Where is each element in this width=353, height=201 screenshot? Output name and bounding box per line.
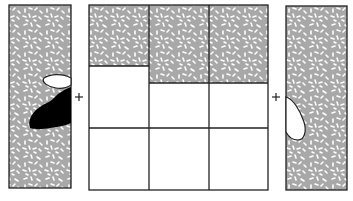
composition-diagram xyxy=(0,0,353,201)
plus-operator xyxy=(75,93,83,101)
left-strip xyxy=(9,5,71,188)
right-strip xyxy=(286,6,347,190)
tile-grid xyxy=(89,5,268,190)
plus-operator xyxy=(272,93,280,101)
